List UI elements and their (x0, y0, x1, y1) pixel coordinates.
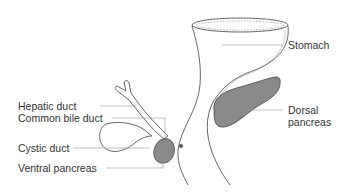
dorsal-pancreas (214, 77, 280, 127)
stomach-rim (192, 18, 288, 32)
label-dorsal-pancreas-1: Dorsal (288, 104, 318, 116)
ventral-pancreas (154, 139, 175, 164)
label-cystic-duct: Cystic duct (18, 142, 69, 154)
label-common-bile-duct: Common bile duct (18, 112, 103, 124)
label-ventral-pancreas: Ventral pancreas (18, 162, 97, 174)
label-stomach: Stomach (288, 39, 329, 51)
label-hepatic-duct: Hepatic duct (18, 100, 76, 112)
label-dorsal-pancreas-2: pancreas (288, 116, 331, 128)
gallbladder (100, 122, 152, 151)
duct-opening (179, 144, 183, 148)
